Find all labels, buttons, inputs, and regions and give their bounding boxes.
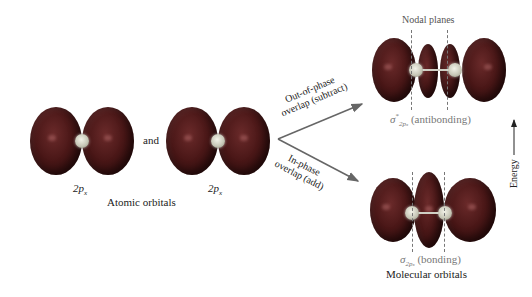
label-sigma-antibonding: σ*2px (antibonding) (390, 112, 471, 128)
nucleus (448, 63, 462, 77)
energy-axis-label: Energy (508, 159, 519, 188)
nucleus (438, 206, 452, 220)
orbital-lobe (444, 178, 496, 242)
label-nodal-planes: Nodal planes (402, 14, 455, 25)
nodal-guide-left (412, 172, 413, 252)
nodal-plane-left (411, 30, 412, 110)
orbital-lobe (462, 38, 506, 102)
nodal-guide-right (444, 172, 445, 252)
nodal-plane-right (447, 30, 448, 110)
caption-molecular-orbitals: Molecular orbitals (386, 268, 467, 280)
label-sigma-bonding: σ2px (bonding) (400, 253, 461, 268)
